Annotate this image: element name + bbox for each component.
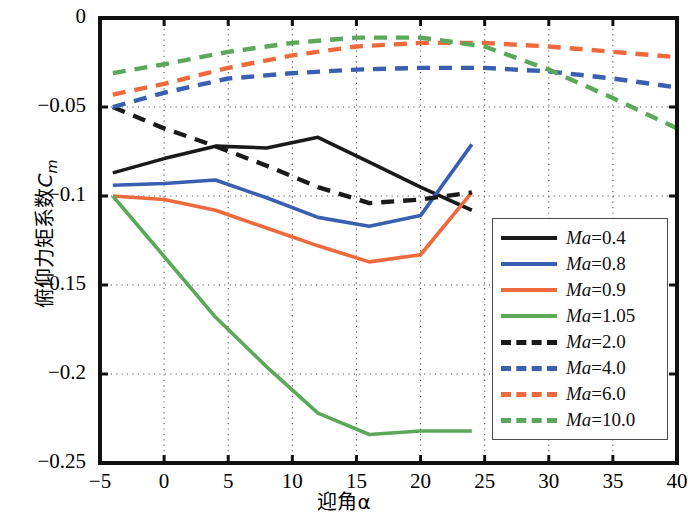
legend-symbol: Ma: [566, 357, 591, 378]
legend-item[interactable]: Ma=6.0: [493, 381, 667, 407]
legend-symbol: Ma: [566, 383, 591, 404]
y-tick-label: 0: [0, 4, 86, 29]
legend-item[interactable]: Ma=0.8: [493, 251, 667, 277]
legend-item[interactable]: Ma=2.0: [493, 329, 667, 355]
legend-item[interactable]: Ma=10.0: [493, 407, 667, 433]
legend-item[interactable]: Ma=4.0: [493, 355, 667, 381]
legend-swatch: [501, 392, 557, 397]
legend-value: =10.0: [591, 409, 635, 430]
legend-swatch: [501, 314, 557, 318]
legend-value: =2.0: [591, 331, 625, 352]
legend-item[interactable]: Ma=0.9: [493, 277, 667, 303]
legend-symbol: Ma: [566, 331, 591, 352]
legend-swatch: [501, 236, 557, 240]
legend-value: =6.0: [591, 383, 625, 404]
y-axis-label-symbol: C: [33, 174, 57, 188]
legend-label: Ma=6.0: [566, 383, 626, 405]
legend-symbol: Ma: [566, 409, 591, 430]
y-axis-label: 俯仰力矩系数Cm: [29, 94, 60, 374]
legend-swatch: [501, 288, 557, 292]
legend-value: =1.05: [591, 305, 635, 326]
y-axis-label-text: 俯仰力矩系数: [33, 188, 57, 308]
legend-swatch: [501, 366, 557, 371]
legend-swatch: [501, 262, 557, 266]
x-axis-label: 迎角α: [0, 486, 688, 515]
legend-label: Ma=0.9: [566, 279, 626, 301]
legend-symbol: Ma: [566, 279, 591, 300]
legend-value: =0.8: [591, 253, 625, 274]
legend-box: Ma=0.4Ma=0.8Ma=0.9Ma=1.05Ma=2.0Ma=4.0Ma=…: [492, 218, 668, 440]
legend-item[interactable]: Ma=1.05: [493, 303, 667, 329]
legend-value: =0.4: [591, 227, 625, 248]
legend-label: Ma=4.0: [566, 357, 626, 379]
legend-label: Ma=1.05: [566, 305, 635, 327]
legend-swatch: [501, 340, 557, 345]
y-tick-label: −0.25: [0, 449, 86, 474]
legend-symbol: Ma: [566, 227, 591, 248]
legend-symbol: Ma: [566, 253, 591, 274]
legend-label: Ma=0.8: [566, 253, 626, 275]
legend-symbol: Ma: [566, 305, 591, 326]
legend-label: Ma=10.0: [566, 409, 635, 431]
legend-value: =0.9: [591, 279, 625, 300]
legend-swatch: [501, 418, 557, 423]
legend-label: Ma=2.0: [566, 331, 626, 353]
legend-item[interactable]: Ma=0.4: [493, 225, 667, 251]
legend-value: =4.0: [591, 357, 625, 378]
y-axis-label-subscript: m: [44, 160, 60, 174]
legend-label: Ma=0.4: [566, 227, 626, 249]
